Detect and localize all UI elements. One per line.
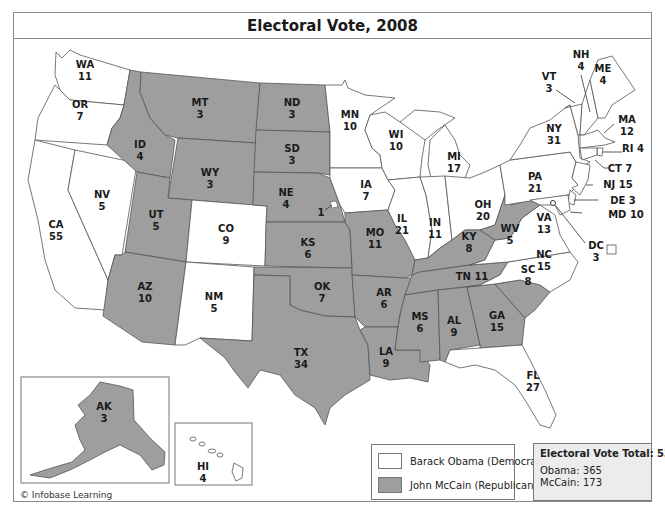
state-votes-NH: 4 <box>578 61 585 72</box>
state-votes-WI: 10 <box>389 141 403 152</box>
state-abbr-OH: OH <box>475 199 492 210</box>
state-label-MO: MO11 <box>366 227 384 250</box>
state-abbr-GA: GA <box>489 310 505 321</box>
state-label-FL: FL27 <box>526 370 540 393</box>
state-abbr-KS: KS <box>301 237 316 248</box>
state-abbr-IN: IN <box>429 217 441 228</box>
state-label-TN: TN 11 <box>456 271 489 282</box>
state-abbr-CA: CA <box>48 219 63 230</box>
state-votes-KY: 8 <box>466 243 473 254</box>
state-votes-OR: 7 <box>77 111 84 122</box>
totals-mccain: McCain: 173 <box>540 477 645 489</box>
state-label-CT: CT 7 <box>608 163 633 174</box>
totals-heading: Electoral Vote Total: 538 <box>540 448 645 459</box>
state-label-MI: MI17 <box>447 151 461 174</box>
state-votes-AR: 6 <box>381 299 388 310</box>
state-abbr-MA: MA <box>618 114 636 125</box>
state-abbr-NE: NE <box>278 187 293 198</box>
state-abbr-SC: SC <box>521 264 536 275</box>
state-abbr-NM: NM <box>205 291 223 302</box>
state-votes-NE: 4 <box>283 199 290 210</box>
totals-obama: Obama: 365 <box>540 465 645 477</box>
state-label-TX: TX34 <box>294 347 309 370</box>
legend: Barack Obama (Democrat) John McCain (Rep… <box>371 444 515 500</box>
state-abbr-WY: WY <box>201 167 220 178</box>
leader-ma <box>604 124 614 133</box>
state-votes-NV: 5 <box>99 201 106 212</box>
state-abbr-AR: AR <box>376 287 392 298</box>
state-votes-MA: 12 <box>620 126 634 137</box>
state-votes-MN: 10 <box>343 121 357 132</box>
state-abbr-LA: LA <box>379 346 393 357</box>
state-DC[interactable] <box>551 201 556 206</box>
state-NJ[interactable] <box>572 162 590 195</box>
state-label-GA: GA15 <box>489 310 505 333</box>
state-abbr-WA: WA <box>76 59 95 70</box>
state-votes-IA: 7 <box>363 191 370 202</box>
state-abbr-NH: NH <box>573 49 590 60</box>
legend-label-democrat: Barack Obama (Democrat) <box>410 456 544 467</box>
state-abbr-PA: PA <box>528 171 542 182</box>
state-abbr-MS: MS <box>411 311 428 322</box>
state-abbr-ND: ND <box>284 97 301 108</box>
state-votes-GA: 15 <box>490 322 504 333</box>
state-votes-NC: 15 <box>537 261 551 272</box>
state-abbr-TX: TX <box>294 347 309 358</box>
state-votes-AL: 9 <box>451 327 458 338</box>
state-votes-SD: 3 <box>289 155 296 166</box>
state-label-MD: MD 10 <box>608 209 644 220</box>
state-votes-VT: 3 <box>546 83 553 94</box>
legend-item-republican: John McCain (Republican) <box>378 477 537 493</box>
legend-item-democrat: Barack Obama (Democrat) <box>378 453 544 469</box>
state-label-NC: NC15 <box>536 249 552 272</box>
state-votes-TX: 34 <box>294 359 308 370</box>
state-votes-CO: 9 <box>223 235 230 246</box>
state-votes-PA: 21 <box>528 183 542 194</box>
state-abbr-VT: VT <box>542 71 557 82</box>
state-votes-KS: 6 <box>305 249 312 260</box>
state-abbr-UT: UT <box>149 209 164 220</box>
state-abbr-IA: IA <box>360 179 372 190</box>
state-votes-ND: 3 <box>289 109 296 120</box>
state-abbr-SD: SD <box>284 143 300 154</box>
state-abbr-WI: WI <box>389 129 404 140</box>
state-abbr-HI: HI <box>197 461 209 472</box>
state-abbr-AL: AL <box>447 315 462 326</box>
state-votes-OH: 20 <box>476 211 490 222</box>
state-votes-MI: 17 <box>447 163 461 174</box>
state-label-WA: WA11 <box>76 59 95 82</box>
state-label-RI: RI 4 <box>622 143 644 154</box>
state-abbr-WV: WV <box>501 223 520 234</box>
state-abbr-OK: OK <box>314 281 332 292</box>
state-votes-UT: 5 <box>153 221 160 232</box>
state-abbr-VA: VA <box>537 212 552 223</box>
state-label-NJ: NJ 15 <box>603 179 633 190</box>
state-abbr-ME: ME <box>595 63 612 74</box>
state-label-NE-split: 1 <box>318 207 325 218</box>
state-abbr-KY: KY <box>462 231 478 242</box>
state-label-AZ: AZ10 <box>138 281 153 304</box>
leader-ct <box>595 160 608 168</box>
state-votes-VA: 13 <box>537 224 551 235</box>
state-label-OH: OH20 <box>475 199 492 222</box>
state-votes-MO: 11 <box>368 239 382 250</box>
leader-md <box>570 212 582 213</box>
state-RI[interactable] <box>597 148 603 156</box>
state-CT[interactable] <box>580 148 597 160</box>
dc-swatch <box>607 245 616 254</box>
state-votes-DC: 3 <box>593 252 600 263</box>
state-votes-MS: 6 <box>417 323 424 334</box>
leader-vt <box>556 90 575 103</box>
state-label-NY: NY31 <box>546 123 562 146</box>
state-abbr-MT: MT <box>192 97 209 108</box>
state-label-NH: NH4 <box>573 49 590 72</box>
state-label-MN: MN10 <box>341 109 359 132</box>
state-votes-NM: 5 <box>211 303 218 314</box>
state-votes-HI: 4 <box>200 473 207 484</box>
state-votes-AZ: 10 <box>138 293 152 304</box>
state-label-CA: CA55 <box>48 219 63 242</box>
state-votes-MT: 3 <box>197 109 204 120</box>
state-label-DC: DC3 <box>588 240 604 263</box>
state-abbr-NV: NV <box>94 189 110 200</box>
state-abbr-FL: FL <box>526 370 540 381</box>
